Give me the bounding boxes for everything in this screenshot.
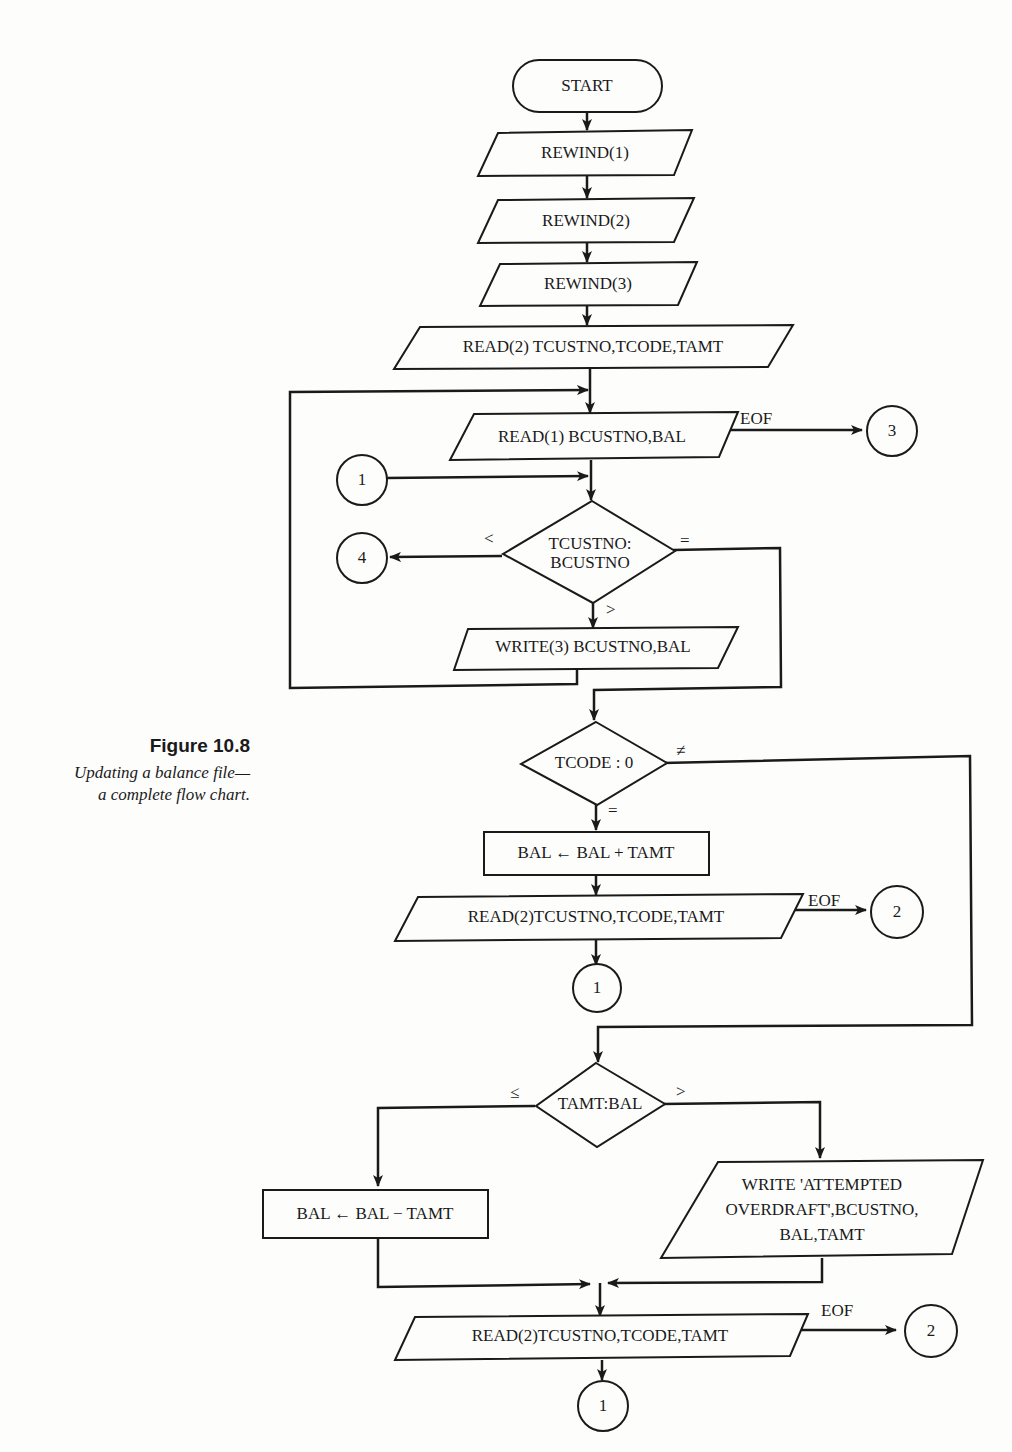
terminal-start: START (513, 60, 662, 112)
svg-text:4: 4 (358, 548, 367, 567)
io-read-transaction-after-add: READ(2)TCUSTNO,TCODE,TAMT (395, 894, 803, 941)
connector-4: 4 (337, 533, 387, 583)
flowchart-svg: START REWIND(1) REWIND(2) REWIND(3) READ… (0, 0, 1012, 1452)
io-write-balance: WRITE(3) BCUSTNO,BAL (454, 627, 738, 670)
read-transaction-final-label: READ(2)TCUSTNO,TCODE,TAMT (472, 1326, 729, 1345)
edge-label-eof-after-add: EOF (808, 891, 840, 910)
svg-text:1: 1 (358, 470, 367, 489)
read-transaction-after-add-label: READ(2)TCUSTNO,TCODE,TAMT (468, 907, 725, 926)
decision-custno: TCUSTNO: BCUSTNO (503, 501, 675, 603)
decision-tcode-label: TCODE : 0 (555, 753, 633, 772)
edge-label-eof-balance: EOF (740, 409, 772, 428)
svg-text:3: 3 (888, 421, 897, 440)
decision-amount-vs-balance: TAMT:BAL (536, 1063, 665, 1147)
flowchart-figure: Figure 10.8 Updating a balance file— a c… (0, 0, 1012, 1452)
rewind-2-label: REWIND(2) (542, 211, 630, 230)
svg-text:2: 2 (893, 902, 902, 921)
edge-label-gt: > (676, 1082, 686, 1101)
decision-amount-label: TAMT:BAL (558, 1094, 643, 1113)
edge-label-le: ≤ (510, 1083, 519, 1102)
connector-3: 3 (867, 406, 917, 456)
write-overdraft-line-2: OVERDRAFT',BCUSTNO, (726, 1200, 919, 1219)
write-overdraft-line-1: WRITE 'ATTEMPTED (742, 1175, 902, 1194)
edge-label-equal: = (680, 531, 690, 550)
io-rewind-2: REWIND(2) (478, 198, 694, 243)
subtract-amount-label: BAL ← BAL − TAMT (297, 1204, 454, 1223)
svg-text:1: 1 (599, 1396, 608, 1415)
decision-tcode: TCODE : 0 (521, 722, 667, 805)
edge-label-eof-final: EOF (821, 1301, 853, 1320)
process-add-amount: BAL ← BAL + TAMT (484, 832, 709, 875)
io-rewind-3: REWIND(3) (480, 262, 697, 306)
decision-custno-line-1: TCUSTNO: (548, 534, 631, 553)
read-transaction-initial-label: READ(2) TCUSTNO,TCODE,TAMT (463, 337, 724, 356)
io-read-balance: READ(1) BCUSTNO,BAL (450, 412, 738, 460)
add-amount-label: BAL ← BAL + TAMT (518, 843, 675, 862)
io-write-overdraft: WRITE 'ATTEMPTED OVERDRAFT',BCUSTNO, BAL… (661, 1160, 983, 1258)
edge-label-not-equal: ≠ (676, 741, 685, 760)
io-rewind-1: REWIND(1) (478, 130, 692, 176)
start-label: START (561, 76, 613, 95)
read-balance-label: READ(1) BCUSTNO,BAL (498, 427, 686, 446)
connector-1-final: 1 (578, 1381, 628, 1431)
decision-custno-line-2: BCUSTNO (550, 553, 629, 572)
edge-label-greater: > (606, 600, 616, 619)
rewind-3-label: REWIND(3) (544, 274, 632, 293)
svg-text:1: 1 (593, 978, 602, 997)
edge-label-tcode-equal: = (608, 801, 618, 820)
connector-1-entry: 1 (337, 455, 387, 505)
process-subtract-amount: BAL ← BAL − TAMT (263, 1190, 488, 1238)
edge-label-less: < (484, 529, 494, 548)
svg-text:2: 2 (927, 1321, 936, 1340)
io-read-transaction-initial: READ(2) TCUSTNO,TCODE,TAMT (394, 325, 793, 369)
connector-1-after-add: 1 (573, 964, 621, 1012)
connector-2-after-add: 2 (871, 886, 923, 938)
rewind-1-label: REWIND(1) (541, 143, 629, 162)
io-read-transaction-final: READ(2)TCUSTNO,TCODE,TAMT (395, 1314, 808, 1360)
write-balance-label: WRITE(3) BCUSTNO,BAL (495, 637, 690, 656)
connector-2-final: 2 (905, 1305, 957, 1357)
write-overdraft-line-3: BAL,TAMT (779, 1225, 865, 1244)
